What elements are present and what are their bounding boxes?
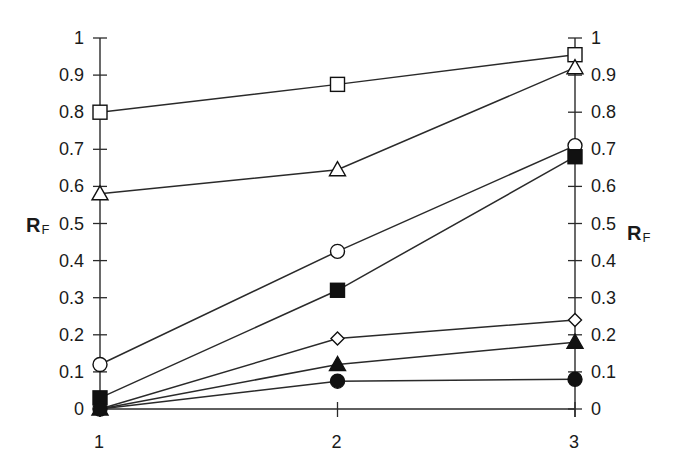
- left-y-tick-label: 0.9: [59, 65, 84, 85]
- left-y-tick-label: 0.5: [59, 214, 84, 234]
- circle-marker: [93, 402, 107, 416]
- left-y-tick-label: 0.7: [59, 139, 84, 159]
- left-y-tick-label: 0.2: [59, 325, 84, 345]
- diamond-marker: [331, 332, 344, 345]
- rf-line-chart: 000.10.10.20.20.30.30.40.40.50.50.60.60.…: [0, 0, 678, 472]
- x-tick-label: 2: [331, 432, 341, 452]
- right-y-tick-label: 0.2: [591, 325, 616, 345]
- circle-marker: [568, 372, 582, 386]
- left-y-tick-label: 0: [74, 399, 84, 419]
- x-tick-label: 1: [94, 432, 104, 452]
- series-markers: [92, 48, 583, 416]
- left-y-tick-label: 0.8: [59, 102, 84, 122]
- diamond-marker: [569, 313, 582, 326]
- circle-marker: [331, 374, 345, 388]
- x-tick-label: 3: [569, 432, 579, 452]
- right-y-tick-label: 0.1: [591, 362, 616, 382]
- square-marker: [568, 150, 582, 164]
- right-y-tick-label: 0.6: [591, 176, 616, 196]
- triangle-marker: [330, 162, 346, 176]
- right-y-tick-label: 0: [591, 399, 601, 419]
- circle-marker: [331, 244, 345, 258]
- left-y-tick-label: 1: [74, 28, 84, 48]
- right-y-tick-label: 0.8: [591, 102, 616, 122]
- left-axis-title: RF: [26, 214, 49, 237]
- left-y-tick-label: 0.1: [59, 362, 84, 382]
- right-y-tick-label: 0.4: [591, 251, 616, 271]
- right-axis-title: RF: [627, 222, 650, 245]
- triangle-marker: [567, 334, 583, 348]
- right-y-tick-label: 0.3: [591, 288, 616, 308]
- left-y-tick-label: 0.6: [59, 176, 84, 196]
- right-y-tick-label: 0.5: [591, 214, 616, 234]
- right-y-tick-label: 1: [591, 28, 601, 48]
- left-y-tick-label: 0.3: [59, 288, 84, 308]
- square-marker: [93, 105, 107, 119]
- circle-marker: [93, 357, 107, 371]
- left-y-tick-label: 0.4: [59, 251, 84, 271]
- right-y-tick-label: 0.9: [591, 65, 616, 85]
- square-marker: [331, 77, 345, 91]
- right-y-tick-label: 0.7: [591, 139, 616, 159]
- square-marker: [331, 283, 345, 297]
